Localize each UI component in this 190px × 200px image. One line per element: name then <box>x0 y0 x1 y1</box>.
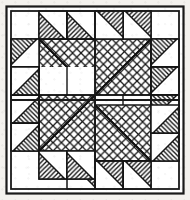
quilt-drawing-canvas: Quilt Block Pattern cross-hatched large … <box>0 0 190 200</box>
quilt-block-figure: Quilt Block Pattern cross-hatched large … <box>0 0 190 200</box>
